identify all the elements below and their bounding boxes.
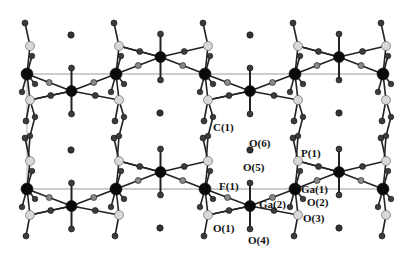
gallium-1-atom — [21, 68, 33, 80]
oxygen-atom — [197, 204, 203, 210]
fluorine-atom — [91, 195, 97, 201]
water-oxygen-atom — [157, 225, 163, 231]
gallium-2-atom — [155, 167, 166, 178]
oxygen-atom — [379, 233, 385, 239]
oxygen-atom — [92, 93, 98, 99]
gallium-1-atom — [377, 183, 389, 195]
gallium-1-atom — [199, 68, 211, 80]
oxygen-atom — [181, 49, 187, 55]
label-ga2: Ga(2) — [259, 199, 286, 210]
phosphorus-atom — [204, 96, 213, 105]
oxygen-atom — [200, 20, 206, 26]
gallium-1-atom — [110, 183, 122, 195]
gallium-2-atom — [334, 167, 345, 178]
phosphorus-atom — [115, 211, 124, 220]
carbon-atom — [205, 133, 211, 139]
oxygen-atom — [137, 164, 143, 170]
water-oxygen-atom — [68, 147, 74, 153]
carbon-atom — [295, 133, 301, 139]
phosphorus-atom — [26, 42, 35, 51]
oxygen-atom — [247, 226, 253, 232]
oxygen-atom — [336, 77, 342, 83]
oxygen-atom — [385, 53, 391, 59]
oxygen-atom — [22, 20, 28, 26]
carbon-atom — [121, 114, 127, 120]
gallium-1-atom — [289, 183, 301, 195]
oxygen-atom — [247, 111, 253, 117]
phosphorus-atom — [26, 96, 35, 105]
oxygen-atom — [210, 81, 216, 87]
oxygen-atom — [111, 20, 117, 26]
oxygen-atom — [158, 77, 164, 83]
oxygen-atom — [360, 49, 366, 55]
gallium-1-atom — [21, 183, 33, 195]
oxygen-atom — [316, 164, 322, 170]
oxygen-atom — [291, 233, 297, 239]
phosphorus-atom — [382, 42, 391, 51]
oxygen-atom — [287, 204, 293, 210]
oxygen-atom — [297, 53, 303, 59]
oxygen-atom — [69, 226, 75, 232]
oxygen-atom — [336, 192, 342, 198]
gallium-1-atom — [289, 68, 301, 80]
oxygen-atom — [360, 164, 366, 170]
crystal-structure-diagram — [0, 0, 413, 255]
oxygen-atom — [108, 89, 114, 95]
phosphorus-atom — [294, 42, 303, 51]
label-o2: O(2) — [307, 197, 328, 208]
carbon-atom — [383, 133, 389, 139]
oxygen-atom — [287, 89, 293, 95]
oxygen-atom — [19, 89, 25, 95]
water-oxygen-atom — [336, 225, 342, 231]
oxygen-atom — [226, 208, 232, 214]
oxygen-atom — [158, 146, 164, 152]
oxygen-atom — [92, 208, 98, 214]
oxygen-atom — [385, 168, 391, 174]
oxygen-atom — [201, 118, 207, 124]
oxygen-atom — [247, 65, 253, 71]
fluorine-atom — [46, 195, 52, 201]
label-c1: C(1) — [213, 122, 234, 133]
oxygen-atom — [69, 180, 75, 186]
water-oxygen-atom — [68, 32, 74, 38]
oxygen-atom — [300, 196, 306, 202]
oxygen-atom — [48, 93, 54, 99]
oxygen-atom — [247, 180, 253, 186]
fluorine-atom — [91, 80, 97, 86]
label-o5: O(5) — [243, 162, 264, 173]
label-o6: O(6) — [249, 138, 270, 149]
fluorine-atom — [135, 178, 141, 184]
oxygen-atom — [137, 49, 143, 55]
fluorine-atom — [180, 178, 186, 184]
gallium-2-atom — [245, 86, 256, 97]
oxygen-atom — [121, 81, 127, 87]
oxygen-atom — [201, 233, 207, 239]
gallium-2-atom — [245, 201, 256, 212]
carbon-atom — [27, 133, 33, 139]
oxygen-atom — [226, 93, 232, 99]
oxygen-atom — [378, 20, 384, 26]
water-oxygen-atom — [247, 32, 253, 38]
carbon-atom — [116, 133, 122, 139]
fluorine-atom — [225, 80, 231, 86]
oxygen-atom — [108, 204, 114, 210]
fluorine-atom — [270, 80, 276, 86]
fluorine-atom — [314, 63, 320, 69]
label-f1: F(1) — [219, 181, 239, 192]
oxygen-atom — [291, 118, 297, 124]
oxygen-atom — [69, 111, 75, 117]
oxygen-atom — [181, 164, 187, 170]
oxygen-atom — [207, 53, 213, 59]
oxygen-atom — [207, 168, 213, 174]
oxygen-atom — [375, 204, 381, 210]
label-ga1: Ga(1) — [301, 184, 328, 195]
phosphorus-atom — [26, 157, 35, 166]
carbon-atom — [300, 114, 306, 120]
gallium-2-atom — [66, 86, 77, 97]
label-o1: O(1) — [213, 223, 234, 234]
oxygen-atom — [19, 204, 25, 210]
water-oxygen-atom — [336, 110, 342, 116]
oxygen-atom — [336, 31, 342, 37]
phosphorus-atom — [204, 157, 213, 166]
oxygen-atom — [112, 118, 118, 124]
